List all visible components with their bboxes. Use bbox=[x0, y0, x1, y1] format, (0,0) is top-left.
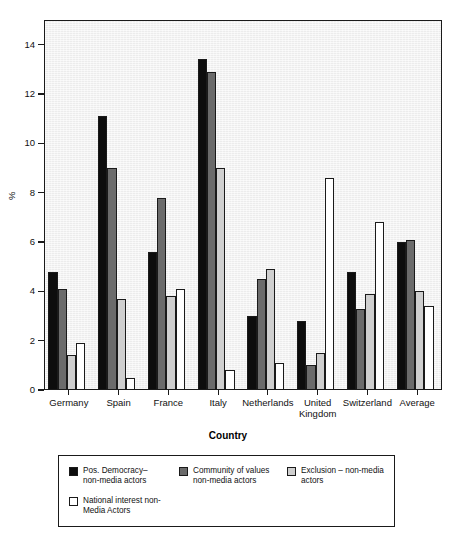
bar-group bbox=[148, 20, 185, 390]
y-axis-tick-label: 10 bbox=[24, 139, 35, 149]
x-axis-tick-label: Average bbox=[400, 397, 435, 408]
y-axis-title: % bbox=[6, 192, 17, 200]
legend-entry: Exclusion – non-media actors bbox=[287, 466, 384, 486]
x-axis-tick-label: Italy bbox=[209, 397, 226, 408]
bar bbox=[117, 299, 126, 390]
bar-group bbox=[198, 20, 235, 390]
y-axis-tick-label: 12 bbox=[24, 89, 35, 99]
bar bbox=[356, 309, 365, 390]
y-axis-tick-label: 14 bbox=[24, 40, 35, 50]
bar bbox=[126, 378, 135, 390]
bar bbox=[157, 198, 166, 390]
bar-group bbox=[247, 20, 284, 390]
bar bbox=[176, 289, 185, 390]
y-axis-tick-label: 4 bbox=[30, 287, 35, 297]
bar bbox=[406, 240, 415, 390]
x-axis-tick-label: Switzerland bbox=[343, 397, 392, 408]
x-axis-tick-mark bbox=[168, 390, 169, 395]
legend-label: National interest non- Media Actors bbox=[83, 496, 161, 516]
legend-swatch-icon bbox=[69, 467, 78, 476]
bar bbox=[275, 363, 284, 390]
x-axis-tick-label: France bbox=[154, 397, 184, 408]
x-axis-tick-label: Germany bbox=[49, 397, 88, 408]
bar bbox=[67, 355, 76, 390]
bar bbox=[397, 242, 406, 390]
bar bbox=[306, 365, 315, 390]
bar bbox=[375, 222, 384, 390]
x-axis-tick-mark bbox=[218, 390, 219, 395]
x-axis-tick-mark bbox=[367, 390, 368, 395]
bar bbox=[76, 343, 85, 390]
x-axis-tick-label: Netherlands bbox=[242, 397, 293, 408]
bar-group bbox=[48, 20, 85, 390]
legend-entry: Pos. Democracy– non-media actors bbox=[69, 466, 148, 486]
bar bbox=[266, 269, 275, 390]
x-axis-tick-mark bbox=[417, 390, 418, 395]
legend-swatch-icon bbox=[69, 497, 78, 506]
bar bbox=[316, 353, 325, 390]
bar bbox=[148, 252, 157, 390]
bar-group bbox=[98, 20, 135, 390]
legend-entry: National interest non- Media Actors bbox=[69, 496, 161, 516]
bar-group bbox=[397, 20, 434, 390]
bar bbox=[257, 279, 266, 390]
bar-chart-figure: % 02468101214 GermanySpainFranceItalyNet… bbox=[0, 0, 456, 538]
bar bbox=[98, 116, 107, 390]
x-axis-tick-mark bbox=[267, 390, 268, 395]
chart-legend: Pos. Democracy– non-media actorsCommunit… bbox=[58, 455, 395, 527]
bar bbox=[58, 289, 67, 390]
x-axis-tick-label: Spain bbox=[106, 397, 130, 408]
bar bbox=[415, 291, 424, 390]
bar-group bbox=[347, 20, 384, 390]
bar bbox=[198, 59, 207, 390]
y-axis-tick-label: 0 bbox=[30, 385, 35, 395]
bar bbox=[325, 178, 334, 390]
bar bbox=[347, 272, 356, 390]
bar bbox=[107, 168, 116, 390]
y-axis-tick-label: 8 bbox=[30, 188, 35, 198]
bar bbox=[297, 321, 306, 390]
bar bbox=[166, 296, 175, 390]
legend-label: Community of values non-media actors bbox=[193, 466, 269, 486]
legend-swatch-icon bbox=[287, 467, 296, 476]
bar bbox=[216, 168, 225, 390]
x-axis-tick-label: United Kingdom bbox=[299, 397, 337, 419]
bar bbox=[365, 294, 374, 390]
legend-label: Pos. Democracy– non-media actors bbox=[83, 466, 148, 486]
x-axis-tick-mark bbox=[68, 390, 69, 395]
bar bbox=[424, 306, 433, 390]
bar bbox=[207, 72, 216, 390]
x-axis-tick-mark bbox=[317, 390, 318, 395]
y-axis-tick-label: 2 bbox=[30, 336, 35, 346]
x-axis-tick-mark bbox=[118, 390, 119, 395]
bars-layer bbox=[44, 20, 442, 390]
bar-group bbox=[297, 20, 334, 390]
legend-entry: Community of values non-media actors bbox=[179, 466, 269, 486]
bar bbox=[225, 370, 234, 390]
bar bbox=[48, 272, 57, 390]
y-axis-tick-label: 6 bbox=[30, 237, 35, 247]
legend-label: Exclusion – non-media actors bbox=[301, 466, 384, 486]
legend-swatch-icon bbox=[179, 467, 188, 476]
bar bbox=[247, 316, 256, 390]
x-axis-title: Country bbox=[0, 430, 456, 441]
